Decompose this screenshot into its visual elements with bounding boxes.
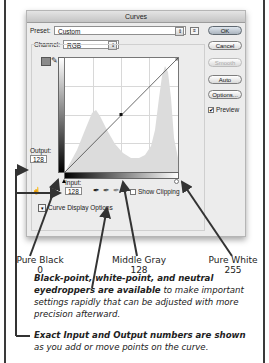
callout-arrows [0,0,269,363]
